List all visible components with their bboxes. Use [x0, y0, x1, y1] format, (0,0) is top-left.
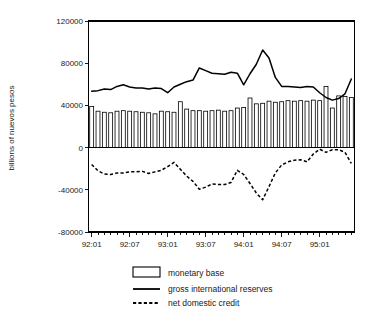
- bar: [337, 96, 341, 148]
- y-tick-label: 0: [79, 144, 84, 153]
- bar: [229, 111, 233, 148]
- y-tick-label: 120000: [56, 17, 83, 26]
- bar: [90, 106, 94, 147]
- bar: [121, 111, 125, 148]
- bar: [223, 111, 227, 147]
- bar: [299, 101, 303, 148]
- bar: [178, 102, 182, 148]
- bar: [147, 113, 151, 148]
- x-tick-label: 92:01: [82, 240, 103, 249]
- bar: [318, 101, 322, 148]
- bar: [273, 102, 277, 147]
- bar: [128, 111, 132, 147]
- series-gross-international-reserves-line: [92, 50, 352, 100]
- bar: [343, 96, 347, 147]
- x-tick-label: 95:01: [310, 240, 331, 249]
- bar: [311, 100, 315, 147]
- y-axis-title: billions of nuevos pesos: [7, 86, 16, 171]
- series-net-domestic-credit-line: [92, 149, 352, 200]
- bar: [204, 111, 208, 147]
- bar: [254, 104, 258, 148]
- chart-canvas: billions of nuevos pesos 120000 80000 40…: [0, 0, 381, 323]
- y-tick-label: 40000: [61, 101, 84, 110]
- bar: [115, 111, 119, 147]
- bar: [216, 110, 220, 147]
- x-tick-label: 93:07: [196, 240, 217, 249]
- bar: [153, 114, 157, 148]
- bar: [159, 111, 163, 147]
- bar: [185, 109, 189, 148]
- y-tick-label: -40000: [58, 186, 83, 195]
- bar: [197, 111, 201, 148]
- bar: [280, 102, 284, 148]
- bar: [102, 112, 106, 147]
- bar: [210, 111, 214, 148]
- x-tick-label: 94:01: [234, 240, 255, 249]
- bar: [140, 112, 144, 147]
- bar: [349, 97, 353, 147]
- bar: [261, 103, 265, 147]
- bar: [134, 112, 138, 148]
- chart-figure: billions of nuevos pesos 120000 80000 40…: [0, 0, 381, 323]
- bar: [172, 112, 176, 147]
- bar: [242, 108, 246, 148]
- bar: [191, 111, 195, 148]
- legend-label-monetary-base: monetary base: [168, 268, 224, 278]
- bar: [330, 108, 334, 148]
- y-tick-label: -80000: [58, 228, 83, 237]
- x-tick-label: 94:07: [272, 240, 293, 249]
- x-tick-label: 92:07: [120, 240, 141, 249]
- bar: [166, 112, 170, 148]
- bar: [109, 113, 113, 148]
- series-monetary-base-bars: [90, 86, 354, 147]
- bar: [286, 101, 290, 148]
- bar: [248, 98, 252, 148]
- bar: [292, 101, 296, 147]
- legend-swatch-monetary-base: [133, 267, 160, 277]
- chart-legend: monetary base gross international reserv…: [133, 267, 272, 308]
- x-axis-tick-marks: [92, 232, 352, 237]
- x-tick-label: 93:01: [158, 240, 179, 249]
- bar: [305, 101, 309, 147]
- legend-label-net-domestic-credit: net domestic credit: [168, 298, 240, 308]
- bar: [267, 101, 271, 147]
- bar: [235, 108, 239, 148]
- bar: [96, 111, 100, 147]
- y-axis-tick-labels: 120000 80000 40000 0 -40000 -80000: [56, 17, 83, 237]
- y-tick-label: 80000: [61, 59, 84, 68]
- legend-label-gross-international-reserves: gross international reserves: [168, 284, 272, 294]
- x-axis-tick-labels: 92:0192:0793:0193:0794:0194:0795:01: [82, 240, 331, 249]
